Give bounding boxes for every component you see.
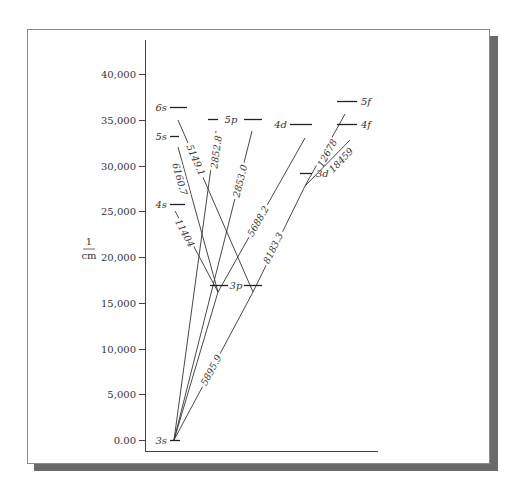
y-tick-label: 40,000: [101, 69, 136, 80]
wavelength-label: 11404: [173, 217, 197, 249]
y-tick-label: 35,000: [101, 115, 136, 126]
transition-label: 5895.9: [197, 351, 225, 390]
transition-label: 6160.7: [170, 159, 191, 198]
transition-label: 2852.8: [208, 133, 224, 172]
transition-label: 8183.3: [259, 228, 286, 267]
level-label-4f: 4f: [360, 119, 373, 130]
y-axis-unit: 1 cm: [81, 236, 97, 261]
energy-level-diagram: 40,00035,00030,00025,00020,00015,00010,0…: [0, 0, 531, 493]
transition-label: 5149.1: [183, 140, 209, 179]
level-label-3d: 3d: [316, 168, 329, 179]
transition-lines: 5149.16160.7114042852.82853.05688.28183.…: [170, 114, 356, 440]
unit-denominator: cm: [81, 250, 97, 261]
transition-label: 2853.0: [230, 161, 250, 200]
level-label-3s: 3s: [156, 435, 168, 446]
level-label-4d: 4d: [273, 119, 287, 130]
y-tick-label: 30,000: [101, 161, 136, 172]
wavelength-label: 5149.1: [184, 143, 207, 178]
wavelength-label: 5688.2: [245, 204, 271, 238]
wavelength-label: 5895.9: [198, 353, 223, 388]
y-axis-ticks: 40,00035,00030,00025,00020,00015,00010,0…: [101, 69, 145, 446]
unit-numerator: 1: [86, 236, 92, 247]
transition-label: 11404: [173, 216, 198, 250]
transition-label: 5688.2: [244, 202, 273, 240]
y-tick-label: 20,000: [101, 252, 136, 263]
y-tick-label: 0.00: [114, 435, 136, 446]
level-label-5s: 5s: [156, 131, 168, 142]
y-tick-label: 15,000: [101, 298, 136, 309]
y-tick-label: 5,000: [107, 389, 136, 400]
y-tick-label: 10,000: [101, 344, 136, 355]
level-label-6s: 6s: [156, 102, 168, 113]
wavelength-label: 8183.3: [261, 231, 286, 266]
level-label-5f: 5f: [361, 96, 373, 107]
level-label-3p: 3p: [230, 280, 243, 291]
wavelength-label: 2852.8: [208, 135, 224, 170]
y-tick-label: 25,000: [101, 206, 136, 217]
level-label-4s: 4s: [155, 199, 168, 210]
wavelength-label: 2853.0: [230, 164, 249, 200]
level-label-5p: 5p: [225, 114, 238, 125]
